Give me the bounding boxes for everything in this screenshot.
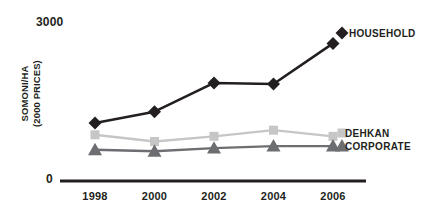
x-axis-tick-2002: 2002 (201, 190, 226, 202)
series-layer (88, 27, 349, 157)
chart-container: 3000 0 SOMONI/HA (2000 PRICES) 199820002… (0, 0, 430, 222)
series-label-household: HOUSEHOLD (349, 28, 416, 39)
x-axis-tick-2006: 2006 (320, 190, 345, 202)
series-household (89, 37, 340, 130)
x-axis-tick-2004: 2004 (261, 190, 286, 202)
series-label-corporate: CORPORATE (345, 141, 411, 152)
x-axis-tick-2000: 2000 (142, 190, 167, 202)
series-corporate (88, 139, 340, 157)
data-point-dehkan-2004 (269, 126, 278, 135)
data-point-dehkan-2002 (210, 132, 219, 141)
x-axis-tick-1998: 1998 (82, 190, 107, 202)
series-label-dehkan: DEHKAN (345, 128, 390, 139)
data-point-household-2002 (208, 76, 221, 89)
data-point-household-2000 (148, 105, 161, 118)
legend-marker-household (336, 27, 349, 40)
data-point-household-1998 (89, 116, 102, 129)
data-point-dehkan-1998 (91, 130, 100, 139)
